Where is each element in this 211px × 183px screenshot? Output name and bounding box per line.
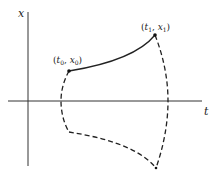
start-point [67, 69, 71, 73]
horizontal-axis-label: t [204, 105, 209, 118]
vertical-axis-label: x [18, 7, 25, 20]
diagram-canvas: x t (t0, x0) (t1, x1) [0, 0, 211, 183]
end-point-label: (t1, x1) [141, 22, 170, 33]
solid-trajectory [69, 35, 155, 71]
bottom-corner-point [155, 167, 158, 170]
dashed-bottom-boundary [69, 132, 156, 168]
end-point [153, 33, 157, 37]
start-point-label: (t0, x0) [53, 55, 82, 66]
